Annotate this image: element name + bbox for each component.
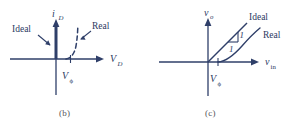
panel-b-x-axis-label: V D xyxy=(110,53,123,67)
panel-b-y-axis-label: i D xyxy=(52,8,64,21)
svg-text:D: D xyxy=(58,14,64,21)
svg-text:v: v xyxy=(204,7,209,18)
panel-c-ideal-curve xyxy=(208,23,247,62)
panel-b-ideal-leader-arrow xyxy=(38,35,51,46)
panel-c-ideal-label: Ideal xyxy=(249,12,268,22)
panel-c-real-label: Real xyxy=(263,30,281,40)
panel-b-real-curve xyxy=(66,27,78,59)
panel-b-diode-iv-chart: Ideal Real i D V D V ϕ xyxy=(0,0,150,105)
panel-c-slope-run-label: 1 xyxy=(229,44,234,54)
panel-b-real-label: Real xyxy=(92,21,110,31)
svg-text:D: D xyxy=(117,60,123,67)
panel-c-caption: (c) xyxy=(205,108,216,118)
svg-text:o: o xyxy=(210,13,214,20)
panel-c-x-axis-label: v in xyxy=(265,56,276,70)
panel-b-ideal-label: Ideal xyxy=(12,24,31,34)
svg-text:ϕ: ϕ xyxy=(218,80,222,87)
panel-b-threshold-label: V ϕ xyxy=(62,70,74,84)
svg-text:ϕ: ϕ xyxy=(70,77,74,84)
panel-c-threshold-label: V ϕ xyxy=(210,73,222,87)
panel-c-transfer-chart: 1 1 Ideal Real v o v in V ϕ xyxy=(150,0,299,105)
svg-text:in: in xyxy=(271,63,277,70)
panel-c-x-axis xyxy=(159,59,259,66)
panel-c-y-axis xyxy=(205,18,212,96)
figure-container: Ideal Real i D V D V ϕ xyxy=(0,0,299,133)
panel-c-slope-rise-label: 1 xyxy=(240,30,245,40)
svg-text:i: i xyxy=(52,8,55,19)
panel-b-real-leader-arrow xyxy=(80,31,91,40)
svg-text:v: v xyxy=(265,56,270,67)
panel-c-y-axis-label: v o xyxy=(204,7,214,20)
panel-b-caption: (b) xyxy=(59,108,70,118)
